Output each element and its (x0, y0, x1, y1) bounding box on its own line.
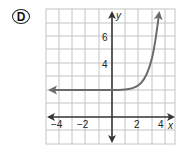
axes (49, 13, 173, 141)
exponential-curve (51, 14, 159, 90)
x-tick-2: 2 (134, 119, 140, 130)
y-axis-name: y (115, 10, 122, 21)
x-axis-name: x (167, 120, 174, 131)
y-tick-6: 6 (102, 32, 108, 43)
x-tick-neg4: −4 (51, 119, 63, 130)
x-tick-neg2: −2 (77, 119, 89, 130)
x-tick-4: 4 (158, 119, 164, 130)
y-tick-4: 4 (102, 59, 108, 70)
graph: −4 −2 2 4 x 6 4 y (0, 0, 183, 148)
grid (46, 9, 175, 144)
